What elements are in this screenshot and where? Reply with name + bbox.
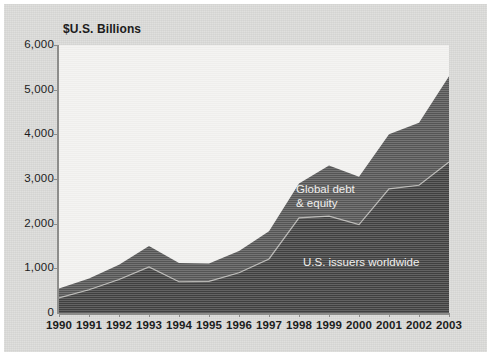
- x-axis-tick-label: 1992: [106, 319, 132, 331]
- x-axis-tick-mark: [269, 313, 270, 317]
- x-axis-tick-label: 1998: [286, 319, 312, 331]
- x-axis-tick-mark: [89, 313, 90, 317]
- x-axis-tick-mark: [149, 313, 150, 317]
- x-axis-tick-mark: [119, 313, 120, 317]
- x-axis-tick-mark: [389, 313, 390, 317]
- y-axis-tick-mark: [54, 179, 59, 180]
- x-axis-tick-mark: [449, 313, 450, 317]
- y-axis-tick-mark: [54, 134, 59, 135]
- y-axis-tick-label: 1,000: [2, 261, 54, 273]
- x-axis-tick-label: 1995: [196, 319, 222, 331]
- y-axis-tick-mark: [54, 224, 59, 225]
- y-axis-tick-labels: 01,0002,0003,0004,0005,0006,000: [0, 0, 54, 356]
- y-axis-tick-label: 6,000: [2, 38, 54, 50]
- x-axis-tick-label: 2000: [346, 319, 372, 331]
- y-axis-tick-label: 0: [2, 306, 54, 318]
- y-axis-title: $U.S. Billions: [63, 22, 141, 36]
- x-axis-tick-label: 2002: [406, 319, 432, 331]
- x-axis-tick-label: 1994: [166, 319, 192, 331]
- x-axis-tick-label: 1993: [136, 319, 162, 331]
- x-axis-line: [59, 313, 450, 315]
- x-axis-tick-mark: [209, 313, 210, 317]
- x-axis-tick-label: 2001: [376, 319, 402, 331]
- x-axis-tick-label: 1990: [46, 319, 72, 331]
- y-axis-tick-label: 3,000: [2, 172, 54, 184]
- x-axis-tick-label: 1999: [316, 319, 342, 331]
- x-axis-tick-label: 1996: [226, 319, 252, 331]
- series-label-us-issuers-worldwide: U.S. issuers worldwide: [303, 255, 419, 269]
- x-axis-tick-mark: [419, 313, 420, 317]
- y-axis-tick-mark: [54, 268, 59, 269]
- stacked-area-series-group: [59, 45, 449, 313]
- series-label-global-debt-equity: Global debt & equity: [296, 182, 355, 210]
- y-axis-tick-label: 2,000: [2, 217, 54, 229]
- x-axis-tick-mark: [299, 313, 300, 317]
- y-axis-tick-mark: [54, 90, 59, 91]
- y-axis-tick-label: 5,000: [2, 83, 54, 95]
- x-axis-tick-labels: 1990199119921993199419951996199719981999…: [0, 319, 491, 339]
- x-axis-tick-mark: [59, 313, 60, 317]
- plot-area: [59, 45, 449, 313]
- y-axis-tick-label: 4,000: [2, 127, 54, 139]
- x-axis-tick-label: 2003: [436, 319, 462, 331]
- y-axis-tick-mark: [54, 45, 59, 46]
- x-axis-tick-mark: [179, 313, 180, 317]
- x-axis-tick-mark: [329, 313, 330, 317]
- x-axis-tick-label: 1997: [256, 319, 282, 331]
- x-axis-tick-mark: [359, 313, 360, 317]
- x-axis-tick-mark: [239, 313, 240, 317]
- chart-figure: $U.S. Billions 01,0002,0003,0004,0005,00…: [0, 0, 491, 356]
- x-axis-tick-label: 1991: [76, 319, 102, 331]
